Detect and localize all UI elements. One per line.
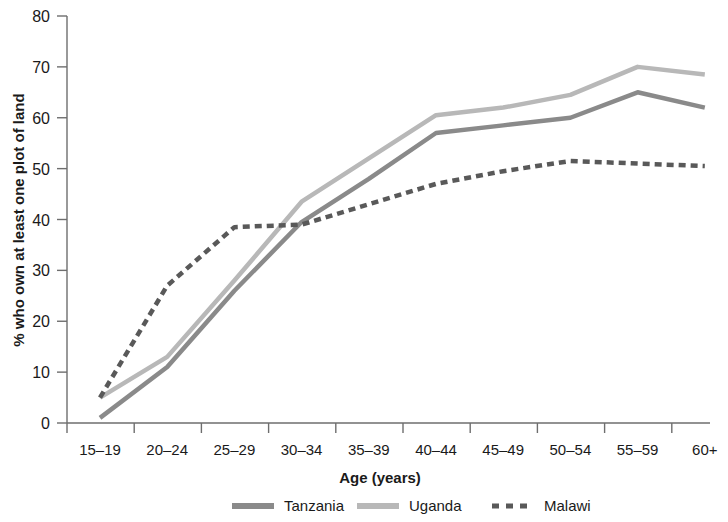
x-tick-label: 40–44 <box>415 441 457 458</box>
y-tick-label: 20 <box>32 313 50 330</box>
y-axis: 01020304050607080 <box>32 8 67 432</box>
chart-figure: % who own at least one plot of land 0102… <box>0 0 728 522</box>
x-tick-label: 55–59 <box>617 441 659 458</box>
x-tick-label: 45–49 <box>482 441 524 458</box>
y-tick-label: 50 <box>32 161 50 178</box>
y-tick-label: 70 <box>32 59 50 76</box>
legend-swatch-tanzania <box>232 503 274 509</box>
x-tick-label: 50–54 <box>550 441 592 458</box>
x-axis-title-text: Age (years) <box>339 469 421 486</box>
x-tick-label: 25–29 <box>214 441 256 458</box>
series-line-malawi <box>100 161 705 398</box>
x-tick-label: 20–24 <box>146 441 188 458</box>
x-tick-label: 35–39 <box>348 441 390 458</box>
chart-series-group <box>100 67 705 418</box>
x-axis: 15–1920–2425–2930–3435–3940–4445–4950–54… <box>67 423 718 458</box>
x-axis-ticks: 15–1920–2425–2930–3435–3940–4445–4950–54… <box>67 423 718 458</box>
legend-label-tanzania: Tanzania <box>284 497 345 514</box>
x-tick-label: 15–19 <box>79 441 121 458</box>
series-line-tanzania <box>100 92 705 418</box>
y-tick-label: 40 <box>32 212 50 229</box>
y-tick-label: 10 <box>32 364 50 381</box>
y-axis-title: % who own at least one plot of land <box>10 93 27 346</box>
y-axis-ticks: 01020304050607080 <box>32 8 67 432</box>
x-tick-label: 60+ <box>692 441 718 458</box>
y-tick-label: 60 <box>32 110 50 127</box>
legend-label-uganda: Uganda <box>409 497 462 514</box>
y-tick-label: 80 <box>32 8 50 25</box>
series-line-uganda <box>100 67 705 398</box>
y-tick-label: 0 <box>41 415 50 432</box>
y-tick-label: 30 <box>32 262 50 279</box>
legend-swatch-uganda <box>357 503 399 509</box>
legend-label-malawi: Malawi <box>544 497 591 514</box>
y-axis-title-text: % who own at least one plot of land <box>10 93 27 346</box>
x-tick-label: 30–34 <box>281 441 323 458</box>
line-chart: % who own at least one plot of land 0102… <box>0 0 728 522</box>
chart-legend: TanzaniaUgandaMalawi <box>232 497 591 514</box>
